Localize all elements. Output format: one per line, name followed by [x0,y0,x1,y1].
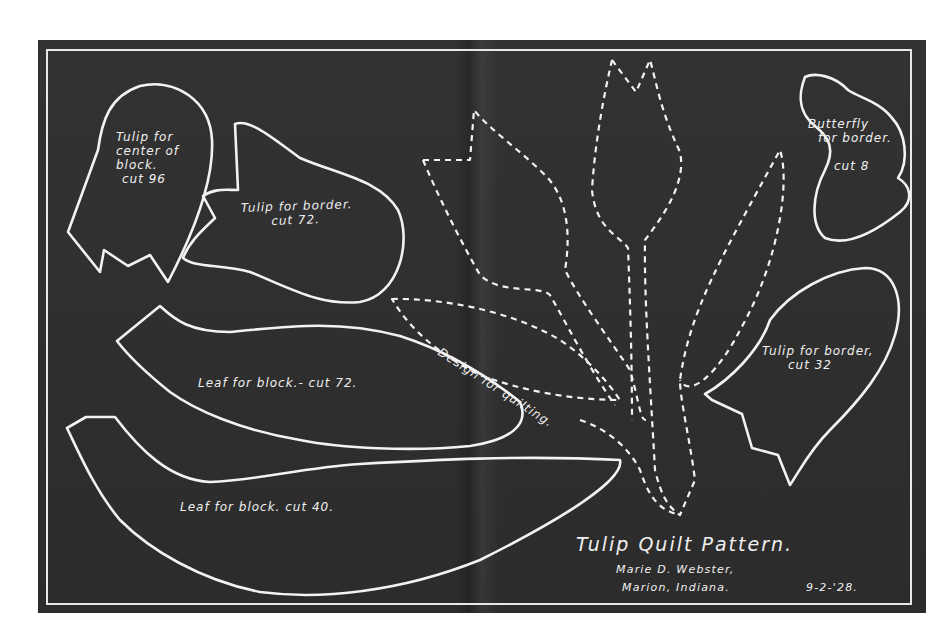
author-name: Marie D. Webster, [616,562,734,578]
document-title: Tulip Quilt Pattern. [576,533,793,555]
label-butterfly: Butterfly for border. cut 8 [808,117,892,173]
label-tulip-border-72: Tulip for border. cut 72. [241,197,354,229]
label-leaf-72: Leaf for block.- cut 72. [198,376,357,390]
document-date: 9-2-'28. [806,580,858,596]
quilting-left-tulip-lower [423,160,615,405]
leaf-40-shape [67,417,620,595]
label-line: Butterfly [808,117,892,131]
label-leaf-40: Leaf for block. cut 40. [180,500,334,514]
label-tulip-center: Tulip for center of block. cut 96 [116,130,179,186]
quilting-left-tulip [423,110,646,420]
label-tulip-border-32: Tulip for border, cut 32 [762,344,874,372]
label-line: block. [116,158,179,172]
quilting-center-tulip [612,60,784,515]
label-line: Leaf for block.- cut 72. [198,376,357,390]
label-line: cut 96 [116,172,179,186]
label-line: Tulip for border, [762,344,874,358]
label-line: cut 32 [762,358,874,372]
label-line: Leaf for block. cut 40. [180,500,334,514]
quilting-leaf [392,299,620,400]
label-line: center of [116,144,179,158]
label-line: Tulip for [116,130,179,144]
tulip-border-32-shape [705,268,899,485]
pattern-shapes [0,0,949,643]
label-line: cut 8 [808,159,892,173]
author-location: Marion, Indiana. [622,580,730,596]
label-line: for border. [808,131,892,145]
